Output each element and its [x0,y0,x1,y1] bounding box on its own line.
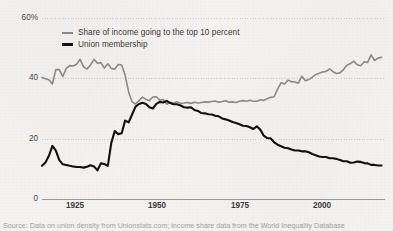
chart-figure: 60% 40 20 0 1925 1950 1975 2000 Share of… [0,0,393,231]
series-line-income-share [42,55,382,104]
series-lines [42,55,382,171]
legend-label-income-share: Share of income going to the top 10 perc… [78,28,239,37]
legend-swatch-union-membership [62,43,73,46]
y-tick-label-20: 20 [0,134,38,143]
legend-item-union-membership: Union membership [62,39,239,50]
series-line-union-membership [42,101,382,170]
legend-item-income-share: Share of income going to the top 10 perc… [62,27,239,38]
x-tick-label-1975: 1975 [210,201,270,210]
legend-label-union-membership: Union membership [78,40,148,49]
legend-swatch-income-share [62,32,73,34]
source-note-text: Source: Data on union density from Union… [3,223,389,230]
y-tick-label-0: 0 [0,194,38,203]
chart-legend: Share of income going to the top 10 perc… [62,27,239,51]
source-note: Source: Data on union density from Union… [3,223,389,231]
y-tick-label-40: 40 [0,73,38,82]
x-tick-label-1925: 1925 [45,201,105,210]
x-tick-label-2000: 2000 [292,201,352,210]
y-tick-label-60: 60% [0,13,38,22]
x-tick-label-1950: 1950 [127,201,187,210]
